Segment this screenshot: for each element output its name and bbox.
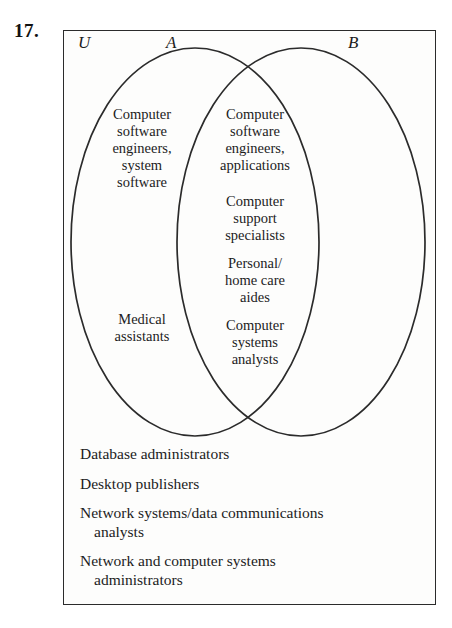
region-text-line: software: [90, 123, 194, 140]
region-text-line: analysts: [203, 351, 307, 368]
region-text-line: Personal/: [203, 255, 307, 272]
universe-label: U: [78, 33, 90, 53]
region-text-line: Computer: [203, 317, 307, 334]
region-text-line: systems: [203, 334, 307, 351]
region-a-only-item-2: Medicalassistants: [90, 311, 194, 345]
outside-list-item-line: analysts: [94, 523, 420, 542]
region-text-line: Computer: [90, 106, 194, 123]
region-text-line: engineers,: [90, 140, 194, 157]
outside-list-item: Network and computer systemsadministrato…: [80, 552, 420, 589]
region-text-line: support: [203, 210, 307, 227]
set-b-label: B: [348, 33, 358, 53]
outside-list-item: Database administrators: [80, 445, 420, 464]
outside-list-item-line: administrators: [94, 571, 420, 590]
outside-list-item-line: Database administrators: [80, 445, 420, 464]
outside-region-list: Database administratorsDesktop publisher…: [80, 445, 420, 601]
region-text-line: specialists: [203, 227, 307, 244]
outside-list-item: Network systems/data communicationsanaly…: [80, 504, 420, 541]
region-text-line: system: [90, 157, 194, 174]
venn-diagram-figure: 17. U A B Computersoftwareengineers,syst…: [0, 0, 452, 628]
region-text-line: aides: [203, 289, 307, 306]
region-text-line: applications: [203, 157, 307, 174]
region-text-line: software: [203, 123, 307, 140]
region-text-line: Medical: [90, 311, 194, 328]
region-text-line: Computer: [203, 106, 307, 123]
region-intersection-item-1: Computersoftwareengineers,applications: [203, 106, 307, 174]
region-intersection-item-3: Personal/home careaides: [203, 255, 307, 306]
outside-list-item-line: Network and computer systems: [80, 552, 420, 571]
region-text-line: home care: [203, 272, 307, 289]
region-text-line: Computer: [203, 193, 307, 210]
region-text-line: engineers,: [203, 140, 307, 157]
problem-number: 17.: [14, 20, 39, 42]
region-intersection-item-4: Computersystemsanalysts: [203, 317, 307, 368]
outside-list-item-line: Network systems/data communications: [80, 504, 420, 523]
region-text-line: assistants: [90, 328, 194, 345]
set-a-label: A: [166, 33, 176, 53]
outside-list-item-line: Desktop publishers: [80, 475, 420, 494]
outside-list-item: Desktop publishers: [80, 475, 420, 494]
region-intersection-item-2: Computersupportspecialists: [203, 193, 307, 244]
region-a-only-item-1: Computersoftwareengineers,systemsoftware: [90, 106, 194, 192]
region-text-line: software: [90, 174, 194, 191]
